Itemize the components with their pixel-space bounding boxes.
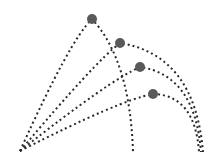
trajectory-3-apex-dot [135,62,145,72]
trajectory-2-path [20,43,203,152]
trajectory-diagram [0,0,213,167]
trajectory-4-path [20,94,199,152]
trajectory-2-apex-dot [115,38,125,48]
trajectory-3-path [20,67,201,152]
trajectory-1-apex-dot [87,14,97,24]
trajectory-4-apex-dot [148,89,158,99]
